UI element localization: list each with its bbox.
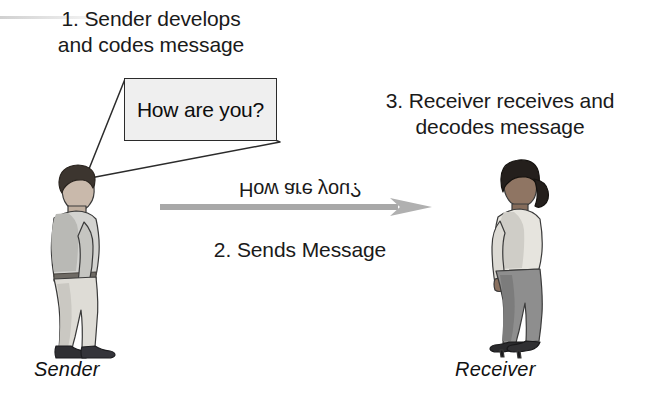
sender-caption: Sender: [34, 358, 100, 381]
step-3-label: 3. Receiver receives and decodes message: [350, 88, 650, 141]
sender-figure-icon: [28, 160, 138, 360]
communication-process-diagram: 1. Sender develops and codes message 3. …: [0, 0, 668, 411]
step-1-label: 1. Sender develops and codes message: [16, 6, 286, 59]
receiver-caption: Receiver: [455, 358, 536, 381]
speech-bubble-text: How are you?: [124, 78, 277, 141]
step-2-label: 2. Sends Message: [175, 238, 425, 262]
receiver-figure-icon: [462, 155, 572, 360]
transmission-arrow-icon: [160, 196, 440, 220]
